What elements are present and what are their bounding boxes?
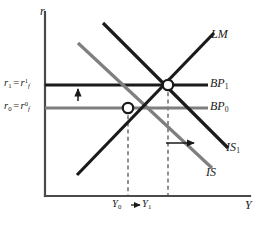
curve-label-lm: LM: [211, 28, 228, 40]
curve-label-is1: IS1: [226, 141, 240, 155]
curve-label-bp0-text: BP: [210, 99, 225, 113]
y-tick-r1-equals: =: [12, 77, 21, 88]
diagram-canvas: [0, 0, 272, 230]
x-axis-label: Y: [245, 199, 252, 211]
curve-label-is1-text: IS: [226, 140, 236, 154]
y-tick-r1-tail-sub: f: [28, 82, 30, 89]
y-tick-r0-equals: =: [12, 100, 21, 111]
curve-label-bp0-sub: 0: [225, 105, 229, 114]
y-axis-label: r: [40, 5, 45, 17]
x-tick-Y0-sub: 0: [118, 203, 122, 210]
y-tick-label-r1: r1=r1f: [4, 78, 30, 90]
curve-LM: [77, 33, 214, 175]
x-tick-label-Y0: Y0: [112, 199, 121, 211]
curve-label-bp1-text: BP: [210, 76, 225, 90]
curve-label-is0: IS: [206, 166, 216, 178]
equilibrium-point-E0: [123, 103, 133, 113]
x-tick-Y1-lead: Y: [142, 198, 148, 209]
curve-label-bp1-sub: 1: [225, 82, 229, 91]
equilibrium-point-E1: [163, 80, 173, 90]
is-lm-bp-figure: r Y LM IS IS1 BP1 BP0 r1=r1f r0=r0f Y0 Y…: [0, 0, 272, 230]
x-tick-Y1-sub: 1: [148, 203, 152, 210]
x-tick-Y0-lead: Y: [112, 198, 118, 209]
curve-label-bp1: BP1: [210, 77, 229, 91]
curve-label-lm-text: LM: [211, 27, 228, 41]
x-tick-label-Y1: Y1: [142, 199, 151, 211]
curve-label-bp0: BP0: [210, 100, 229, 114]
y-tick-label-r0: r0=r0f: [4, 101, 30, 113]
curve-label-is1-sub: 1: [236, 146, 240, 155]
curve-label-is0-text: IS: [206, 165, 216, 179]
y-tick-r0-tail-sub: f: [28, 105, 30, 112]
